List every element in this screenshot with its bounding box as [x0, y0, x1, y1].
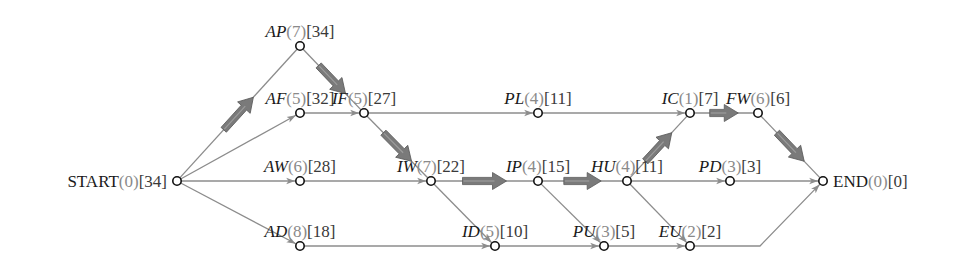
node-label-id: ID(5)[10] — [461, 222, 528, 241]
node-label-start: START(0)[34] — [67, 172, 167, 191]
node-ic — [686, 109, 694, 117]
critical-path-arrow-icon — [771, 127, 811, 167]
node-ap — [296, 42, 304, 50]
node-af — [296, 109, 304, 117]
node-label-fw: FW(6)[6] — [725, 89, 790, 108]
node-label-ap: AP(7)[34] — [265, 22, 335, 41]
node-label-pd: PD(3)[3] — [698, 157, 761, 176]
node-fw — [754, 109, 762, 117]
node-hu — [623, 177, 631, 185]
node-start — [173, 177, 181, 185]
node-label-aw: AW(6)[28] — [263, 157, 336, 176]
node-label-ad: AD(8)[18] — [264, 222, 336, 241]
node-id — [491, 242, 499, 250]
node-ip — [534, 177, 542, 185]
node-iw — [427, 177, 435, 185]
node-label-pu: PU(3)[5] — [572, 222, 635, 241]
node-pl — [534, 109, 542, 117]
node-ad — [296, 242, 304, 250]
node-aw — [296, 177, 304, 185]
node-label-end: END(0)[0] — [833, 172, 908, 191]
node-label-if: IF(5)[27] — [331, 89, 396, 108]
node-pd — [726, 177, 734, 185]
node-label-iw: IW(7)[22] — [396, 157, 465, 176]
node-pu — [600, 242, 608, 250]
node-end — [819, 177, 827, 185]
node-label-af: AF(5)[32] — [265, 89, 335, 108]
node-label-pl: PL(4)[11] — [503, 89, 571, 108]
node-label-ip: IP(4)[15] — [505, 157, 570, 176]
node-layer — [173, 42, 827, 250]
node-label-eu: EU(2)[2] — [658, 222, 721, 241]
edge-layer — [180, 49, 820, 246]
node-if — [360, 109, 368, 117]
label-layer: START(0)[34]AP(7)[34]AF(5)[32]AW(6)[28]A… — [67, 22, 907, 241]
critical-path-arrow-icon — [463, 173, 507, 190]
node-eu — [686, 242, 694, 250]
critical-path-arrow-icon — [217, 92, 259, 136]
network-diagram: START(0)[34]AP(7)[34]AF(5)[32]AW(6)[28]A… — [0, 0, 966, 271]
node-label-ic: IC(1)[7] — [661, 89, 719, 108]
node-label-hu: HU(4)[11] — [590, 157, 663, 176]
